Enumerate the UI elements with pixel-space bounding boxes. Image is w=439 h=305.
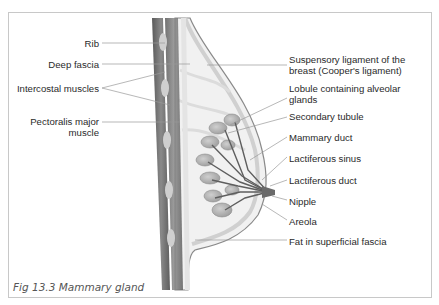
label-pectoralis-line1: Pectoralis major [30,116,99,127]
label-pectoralis-major: Pectoralis major muscle [30,116,99,138]
label-suspensory-line2: breast (Cooper's ligament) [289,65,405,76]
label-lobule-line2: glands [289,94,400,105]
label-pectoralis-line2: muscle [30,127,99,138]
label-lobule-line1: Lobule containing alveolar [289,83,400,94]
label-rib: Rib [85,38,99,49]
label-fat-superficial-fascia: Fat in superficial fascia [289,236,387,247]
label-lobule: Lobule containing alveolar glands [289,83,400,105]
label-secondary-tubule: Secondary tubule [289,111,364,122]
label-mammary-duct: Mammary duct [289,132,352,143]
label-deep-fascia: Deep fascia [48,59,99,70]
label-lactiferous-sinus: Lactiferous sinus [289,153,361,164]
label-nipple: Nipple [289,196,316,207]
label-lactiferous-duct: Lactiferous duct [289,175,357,186]
label-areola: Areola [289,216,317,227]
label-suspensory-ligament: Suspensory ligament of the breast (Coope… [289,54,405,76]
mammary-gland-illustration [0,0,439,305]
label-suspensory-line1: Suspensory ligament of the [289,54,405,65]
figure-caption: Fig 13.3 Mammary gland [13,281,144,293]
label-intercostal-muscles: Intercostal muscles [17,83,99,94]
